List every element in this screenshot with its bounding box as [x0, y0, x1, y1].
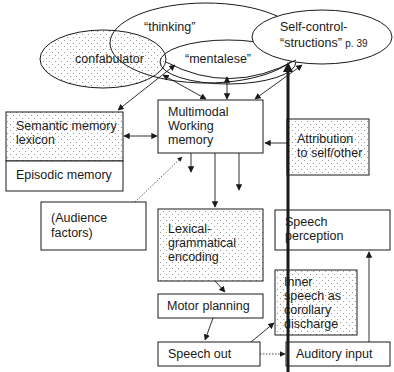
speech-perception-label-1: Speech	[285, 215, 327, 229]
working-memory-label-1: Multimodal	[168, 105, 228, 119]
structions-text: “structions”	[280, 36, 342, 50]
lexical-label-2: grammatical	[168, 236, 236, 250]
arrow-lexical-motor	[215, 281, 225, 292]
page-reference: p. 39	[345, 38, 367, 49]
speech-perception-label-2: perception	[285, 229, 343, 243]
arrow-speechout-inner	[251, 323, 274, 342]
arrow-self-wm	[255, 65, 302, 99]
working-memory-label-3: memory	[168, 133, 213, 147]
inner-speech-label-1: Inner	[284, 275, 313, 289]
attribution-label-1: Attribution	[297, 132, 353, 146]
speech-out-label: Speech out	[168, 347, 231, 361]
auditory-input-label: Auditory input	[296, 347, 372, 361]
audience-label-2: factors)	[51, 226, 93, 240]
thinking-label: “thinking”	[144, 20, 195, 34]
self-control-label-line1: Self-control-	[280, 20, 347, 34]
lexical-label-1: Lexical-	[168, 222, 211, 236]
semantic-memory-label-2: lexicon	[16, 133, 55, 147]
motor-planning-label: Motor planning	[167, 299, 250, 313]
self-control-label-line2: “structions” p. 39	[280, 36, 368, 51]
mentalese-label: “mentalese”	[185, 52, 251, 66]
working-memory-label-2: Working	[168, 119, 214, 133]
episodic-memory-label: Episodic memory	[16, 168, 112, 182]
semantic-memory-label-1: Semantic memory	[16, 119, 117, 133]
confabulator-label: confabulator	[75, 52, 144, 66]
inner-speech-label-2: speech as	[284, 289, 341, 303]
audience-label-1: (Audience	[51, 211, 107, 225]
attribution-label-2: to self/other	[297, 146, 362, 160]
inner-speech-label-3: corollary	[284, 303, 331, 317]
lexical-label-3: encoding	[168, 250, 219, 264]
arrow-motor-speechout	[205, 318, 213, 340]
inner-speech-label-4: discharge	[284, 317, 338, 331]
arrow-audience-wm	[135, 157, 182, 202]
